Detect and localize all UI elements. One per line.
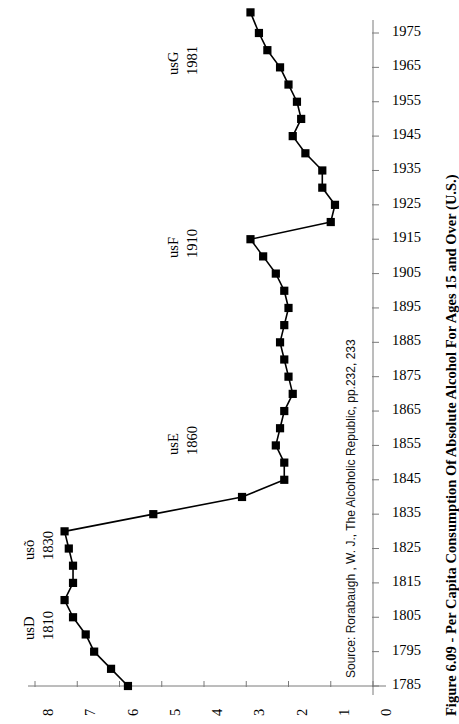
data-point [280, 476, 288, 484]
data-point [69, 562, 77, 570]
year-tick-label: 1845 [392, 471, 421, 486]
series-markers [60, 8, 339, 690]
year-tick-label: 1905 [392, 265, 421, 280]
data-point [327, 218, 335, 226]
annotation-year-usF: 1910 [185, 229, 200, 258]
data-point [284, 304, 292, 312]
annotation-code-usD: usD [22, 617, 37, 640]
data-point [259, 252, 267, 260]
year-tick-label: 1885 [392, 333, 421, 348]
value-tick-label: 0 [379, 709, 394, 716]
year-tick-label: 1855 [392, 436, 421, 451]
year-tick-label: 1875 [392, 368, 421, 383]
data-point [280, 287, 288, 295]
data-point [297, 115, 305, 123]
data-point [238, 493, 246, 501]
data-point [276, 338, 284, 346]
annotation-year-usG: 1981 [185, 46, 200, 75]
data-point [301, 149, 309, 157]
data-point [69, 579, 77, 587]
data-point [60, 527, 68, 535]
data-point [284, 80, 292, 88]
data-point [318, 166, 326, 174]
data-point [284, 373, 292, 381]
data-point [246, 8, 254, 16]
year-tick-label: 1805 [392, 608, 421, 623]
annotation-code-usF: usF [166, 237, 181, 258]
data-point [69, 613, 77, 621]
chart-axes [28, 20, 386, 695]
data-point [276, 63, 284, 71]
value-tick-label: 3 [252, 709, 267, 716]
data-point [124, 682, 132, 690]
year-tick-label: 1945 [392, 127, 421, 142]
year-tick-label: 1815 [392, 574, 421, 589]
figure-title: Figure 6.09 - Per Capita Consumption Of … [444, 175, 459, 717]
year-tick-label: 1935 [392, 161, 421, 176]
data-point [280, 459, 288, 467]
data-point [82, 630, 90, 638]
year-tick-label: 1785 [392, 677, 421, 692]
data-point [65, 544, 73, 552]
year-tick-label: 1955 [392, 93, 421, 108]
value-tick-label: 6 [126, 709, 141, 716]
year-tick-label: 1895 [392, 299, 421, 314]
annotation-code-usG: usG [166, 52, 181, 75]
data-point [255, 29, 263, 37]
annotation-year-usd: 1830 [41, 531, 56, 560]
value-tick-label: 8 [41, 709, 56, 716]
annotation-year-usE: 1860 [185, 426, 200, 455]
data-point [280, 321, 288, 329]
data-point [263, 46, 271, 54]
year-tick-label: 1825 [392, 540, 421, 555]
year-tick-label: 1915 [392, 230, 421, 245]
year-tick-label: 1925 [392, 196, 421, 211]
value-tick-label: 1 [337, 709, 352, 716]
data-point [272, 269, 280, 277]
year-tick-label: 1865 [392, 402, 421, 417]
value-tick-label: 7 [83, 709, 98, 716]
data-point [90, 648, 98, 656]
data-point [331, 201, 339, 209]
series-line [65, 12, 335, 686]
data-point [60, 596, 68, 604]
annotation-code-usd: usõ [22, 540, 37, 560]
year-tick-label: 1965 [392, 58, 421, 73]
data-point [107, 665, 115, 673]
data-point [272, 441, 280, 449]
year-tick-label: 1835 [392, 505, 421, 520]
data-point [280, 407, 288, 415]
data-point [149, 510, 157, 518]
value-tick-label: 2 [295, 709, 310, 716]
annotation-code-usE: usE [166, 433, 181, 455]
data-point [289, 132, 297, 140]
figure-container: 1785179518051815182518351845185518651875… [0, 0, 459, 724]
source-note: Source: Rorabaugh , W. J., The Alcoholic… [345, 339, 357, 678]
data-point [318, 184, 326, 192]
chart-plot-area [0, 0, 459, 724]
year-tick-label: 1795 [392, 643, 421, 658]
year-tick-label: 1975 [392, 24, 421, 39]
data-point [293, 98, 301, 106]
data-point [289, 390, 297, 398]
data-point [246, 235, 254, 243]
data-point [280, 355, 288, 363]
annotation-year-usD: 1810 [41, 611, 56, 640]
value-tick-label: 5 [168, 709, 183, 716]
value-tick-label: 4 [210, 709, 225, 716]
data-point [276, 424, 284, 432]
